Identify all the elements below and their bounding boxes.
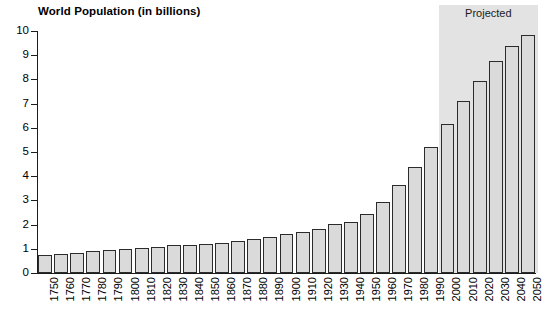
x-axis-tick-label: 1770	[81, 277, 92, 301]
bar	[328, 224, 342, 273]
bar	[119, 249, 133, 273]
bar	[457, 101, 471, 273]
bar	[489, 61, 503, 273]
bar	[38, 255, 52, 273]
x-axis-tick-label: 1910	[307, 277, 318, 301]
y-axis-tick-label: 8	[3, 73, 29, 85]
bar	[408, 167, 422, 273]
bar	[70, 253, 84, 273]
chart-title: World Population (in billions)	[38, 5, 201, 17]
x-axis-tick-label: 1960	[387, 277, 398, 301]
world-population-bar-chart: World Population (in billions) 012345678…	[0, 0, 548, 325]
y-axis-tick-labels: 012345678910	[0, 0, 29, 325]
x-axis-tick-label: 1920	[323, 277, 334, 301]
bar	[521, 35, 535, 273]
x-axis-tick-label: 2030	[500, 277, 511, 301]
bar	[424, 147, 438, 273]
bar	[505, 46, 519, 273]
bar	[263, 237, 277, 273]
y-axis-tick-label: 3	[3, 194, 29, 206]
x-axis-tick-label: 1880	[258, 277, 269, 301]
x-axis-tick-labels: 1750176017701780179018001810182018301840…	[37, 274, 536, 325]
bar	[215, 243, 229, 273]
x-axis-tick-label: 1890	[274, 277, 285, 301]
bar	[151, 247, 165, 273]
bar	[86, 251, 100, 273]
x-axis-tick-label: 1870	[242, 277, 253, 301]
x-axis-tick-label: 1970	[403, 277, 414, 301]
bar	[376, 202, 390, 273]
bar	[441, 124, 455, 273]
bar	[344, 222, 358, 273]
x-axis-tick-label: 1800	[130, 277, 141, 301]
x-axis-tick-label: 1860	[226, 277, 237, 301]
x-axis-tick-label: 1850	[210, 277, 221, 301]
x-axis-tick-label: 1980	[419, 277, 430, 301]
bar	[280, 234, 294, 273]
x-axis-tick-label: 1780	[97, 277, 108, 301]
bar	[296, 232, 310, 273]
x-axis-tick-label: 1840	[194, 277, 205, 301]
y-axis-tick-label: 4	[3, 170, 29, 182]
bar	[199, 244, 213, 273]
bar	[231, 241, 245, 273]
plot-area: Projected	[37, 31, 536, 273]
x-axis-tick-label: 1990	[435, 277, 446, 301]
x-axis-tick-label: 1940	[355, 277, 366, 301]
bar	[167, 245, 181, 273]
x-axis-tick-label: 1760	[65, 277, 76, 301]
x-axis-tick-label: 1950	[371, 277, 382, 301]
bar	[392, 185, 406, 273]
x-axis-tick-label: 2020	[484, 277, 495, 301]
x-axis-tick-label: 1930	[339, 277, 350, 301]
x-axis-tick-label: 1900	[291, 277, 302, 301]
x-axis-tick-label: 1790	[113, 277, 124, 301]
bar	[183, 245, 197, 273]
x-axis-tick-label: 2050	[532, 277, 543, 301]
bar	[312, 229, 326, 273]
bar	[103, 250, 117, 273]
x-axis-tick-label: 1750	[49, 277, 60, 301]
bar	[54, 254, 68, 273]
x-axis-tick-label: 1810	[146, 277, 157, 301]
y-axis-tick-label: 10	[3, 25, 29, 37]
x-axis-tick-label: 2010	[468, 277, 479, 301]
x-axis-tick-label: 2000	[451, 277, 462, 301]
y-axis-tick-label: 2	[3, 219, 29, 231]
bar	[135, 248, 149, 273]
bar	[247, 239, 261, 273]
bar	[360, 214, 374, 273]
y-axis-tick-label: 1	[3, 243, 29, 255]
x-axis-tick-label: 2040	[516, 277, 527, 301]
y-axis-tick-label: 5	[3, 146, 29, 158]
x-axis-tick-label: 1830	[178, 277, 189, 301]
y-axis-tick-label: 7	[3, 98, 29, 110]
y-axis-tick-label: 0	[3, 267, 29, 279]
bar	[473, 81, 487, 273]
y-axis-tick-label: 6	[3, 122, 29, 134]
y-axis-tick-label: 9	[3, 49, 29, 61]
x-axis-tick-label: 1820	[162, 277, 173, 301]
projected-annotation-label: Projected	[439, 7, 538, 19]
